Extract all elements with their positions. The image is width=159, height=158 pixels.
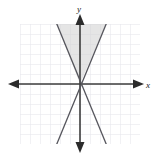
y-axis-up-arrow-icon: [76, 14, 85, 25]
coordinate-graph-figure: x y: [0, 0, 159, 158]
x-axis-left-arrow-icon: [8, 80, 19, 89]
x-axis-label: x: [145, 80, 150, 90]
y-axis-label: y: [76, 4, 81, 14]
graph-canvas: x y: [0, 0, 159, 158]
y-axis-down-arrow-icon: [76, 142, 85, 153]
